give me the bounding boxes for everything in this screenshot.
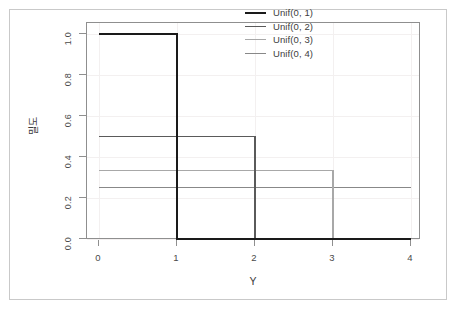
legend: Unif(0, 1)Unif(0, 2)Unif(0, 3)Unif(0, 4) [245, 6, 329, 60]
y-tick-label: 0.6 [63, 114, 73, 127]
y-tick-mark [79, 238, 86, 239]
x-axis-title: Y [86, 275, 420, 287]
y-tick-label: 0.2 [63, 196, 73, 209]
y-axis-title: 밀도 [25, 106, 40, 146]
x-tick-mark [176, 239, 177, 246]
x-tick-mark [410, 239, 411, 246]
legend-label: Unif(0, 2) [273, 21, 313, 32]
y-tick-mark [79, 156, 86, 157]
y-tick-mark [79, 197, 86, 198]
x-tick-label: 3 [317, 252, 347, 263]
legend-item: Unif(0, 3) [245, 33, 329, 47]
x-tick-label: 0 [83, 252, 113, 263]
y-tick-mark [79, 115, 86, 116]
x-tick-mark [254, 239, 255, 246]
x-tick-mark [98, 239, 99, 246]
legend-item: Unif(0, 4) [245, 47, 329, 61]
x-tick-label: 1 [161, 252, 191, 263]
legend-label: Unif(0, 1) [273, 7, 313, 18]
x-tick-mark [332, 239, 333, 246]
legend-item: Unif(0, 1) [245, 6, 329, 20]
legend-label: Unif(0, 4) [273, 48, 313, 59]
legend-item: Unif(0, 2) [245, 20, 329, 34]
legend-line-swatch [245, 26, 266, 27]
y-tick-mark [79, 33, 86, 34]
legend-line-swatch [245, 53, 266, 54]
x-tick-label: 2 [239, 252, 269, 263]
legend-label: Unif(0, 3) [273, 34, 313, 45]
density-plot: 밀도 0.00.20.40.60.81.0 01234 Y Unif(0, 1)… [0, 0, 457, 319]
y-tick-label: 0.8 [63, 73, 73, 86]
y-tick-mark [79, 74, 86, 75]
y-tick-label: 0.4 [63, 155, 73, 168]
x-tick-label: 4 [395, 252, 425, 263]
legend-line-swatch [245, 12, 266, 14]
legend-line-swatch [245, 39, 266, 40]
y-tick-label: 0.0 [63, 237, 73, 250]
y-tick-label: 1.0 [63, 32, 73, 45]
